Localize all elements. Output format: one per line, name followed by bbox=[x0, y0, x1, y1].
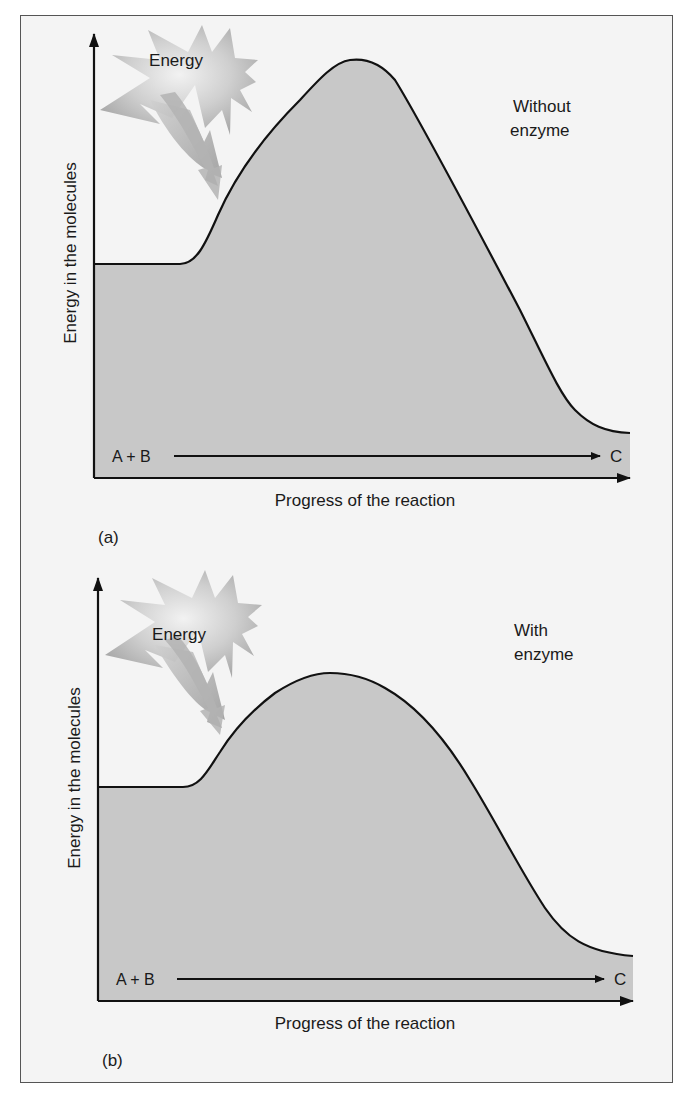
product-label-a: C bbox=[610, 447, 622, 466]
panel-label-a: (a) bbox=[98, 528, 119, 547]
y-axis-label-a: Energy in the molecules bbox=[61, 162, 80, 343]
reactants-label-a: A + B bbox=[112, 448, 151, 465]
energy-diagram: Energy Without enzyme Energy in the mole… bbox=[0, 0, 680, 1100]
condition-label-a-line2: enzyme bbox=[510, 121, 570, 140]
x-axis-label-a: Progress of the reaction bbox=[275, 491, 455, 510]
panel-label-b: (b) bbox=[102, 1051, 123, 1070]
energy-burst-label-b: Energy bbox=[152, 625, 206, 644]
condition-label-b-line2: enzyme bbox=[514, 645, 574, 664]
product-label-b: C bbox=[614, 970, 626, 989]
condition-label-b-line1: With bbox=[514, 621, 548, 640]
panel-a: Energy Without enzyme Energy in the mole… bbox=[61, 25, 630, 547]
x-axis-label-b: Progress of the reaction bbox=[275, 1014, 455, 1033]
energy-curve-fill-b bbox=[99, 673, 633, 1001]
energy-burst-label-a: Energy bbox=[149, 51, 203, 70]
condition-label-a-line1: Without bbox=[513, 97, 571, 116]
y-axis-label-b: Energy in the molecules bbox=[65, 687, 84, 868]
panel-b: Energy With enzyme Energy in the molecul… bbox=[65, 570, 633, 1070]
reactants-label-b: A + B bbox=[116, 971, 155, 988]
